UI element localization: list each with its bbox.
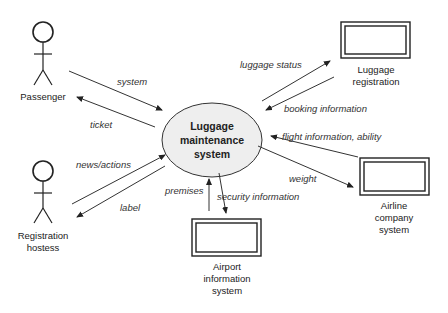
center-label-3: system: [194, 148, 230, 160]
airport-label-2: information: [204, 273, 251, 284]
center-label-1: Luggage: [190, 120, 234, 132]
flow-label-premises: premises: [164, 185, 204, 196]
actor-passenger[interactable]: [33, 22, 53, 85]
flow-label-ticket: ticket: [90, 119, 113, 130]
actor-registration-hostess[interactable]: [33, 161, 53, 223]
system-airport-information[interactable]: [192, 219, 261, 256]
flow-label-system: system: [117, 76, 147, 87]
luggage-registration-label-2: registration: [353, 76, 400, 87]
passenger-label: Passenger: [20, 91, 65, 102]
system-luggage-registration[interactable]: [341, 22, 410, 58]
flow-label-label: label: [120, 202, 141, 213]
flow-arrow-system[interactable]: [69, 71, 162, 110]
context-diagram: Luggage maintenance system Passenger Reg…: [0, 0, 448, 313]
flow-label-booking-information: booking information: [284, 103, 367, 114]
airport-label-1: Airport: [213, 261, 241, 272]
system-airline-company[interactable]: [360, 158, 429, 195]
flow-label-news-actions: news/actions: [76, 159, 131, 170]
center-process[interactable]: Luggage maintenance system: [162, 103, 262, 177]
luggage-registration-label-1: Luggage: [358, 64, 395, 75]
airline-label-3: system: [379, 224, 409, 235]
airline-label-2: company: [375, 212, 414, 223]
actor-head-icon: [33, 22, 53, 42]
airline-label-1: Airline: [381, 200, 407, 211]
flow-label-luggage-status: luggage status: [240, 59, 302, 70]
hostess-label-2: hostess: [27, 242, 60, 253]
center-label-2: maintenance: [180, 134, 244, 146]
flow-label-flight-information: flight information, ability: [282, 131, 383, 142]
actor-head-icon: [33, 161, 53, 181]
airport-label-3: system: [212, 285, 242, 296]
hostess-label-1: Registration: [18, 230, 69, 241]
flow-label-weight: weight: [289, 173, 317, 184]
flow-label-security-information: security information: [217, 191, 299, 202]
flow-arrow-ticket[interactable]: [77, 97, 155, 127]
